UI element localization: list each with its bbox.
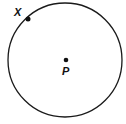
- point-p-center: [64, 58, 69, 63]
- diagram-canvas: X P: [0, 0, 126, 124]
- circle-diagram: X P: [0, 0, 126, 124]
- point-x-label: X: [13, 6, 22, 18]
- point-p-label: P: [62, 65, 70, 77]
- point-x: [26, 17, 31, 22]
